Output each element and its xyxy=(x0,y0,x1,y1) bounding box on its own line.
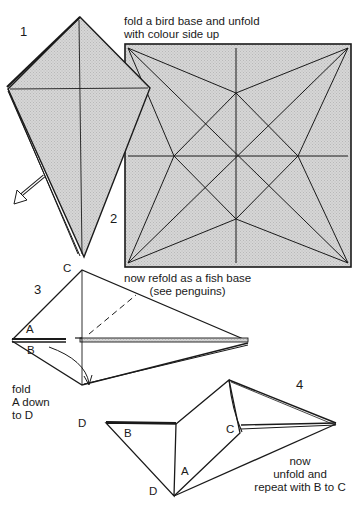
instruction-line: now xyxy=(244,455,356,468)
step2-instruction-top: fold a bird base and unfold with colour … xyxy=(124,15,260,41)
point-label-c: C xyxy=(226,423,234,435)
point-label-b: B xyxy=(27,344,35,356)
instruction-line: (see penguins) xyxy=(124,285,251,298)
step2-instruction-bottom: now refold as a fish base (see penguins) xyxy=(124,272,251,298)
origami-diagram xyxy=(0,0,362,519)
step3-instruction: fold A down to D xyxy=(12,383,50,422)
point-label-b: B xyxy=(124,427,132,439)
instruction-line: to D xyxy=(12,409,50,422)
open-arrow-icon xyxy=(14,176,44,204)
step-number-2: 2 xyxy=(110,211,117,226)
instruction-line: now refold as a fish base xyxy=(124,272,251,285)
step2-crease-square xyxy=(125,44,351,267)
point-label-d: D xyxy=(78,417,86,429)
instruction-line: A down xyxy=(12,396,50,409)
step4-instruction: now unfold and repeat with B to C xyxy=(244,455,356,494)
step-number-4: 4 xyxy=(296,377,303,392)
instruction-line: unfold and xyxy=(244,468,356,481)
step-number-3: 3 xyxy=(34,282,41,297)
instruction-line: fold xyxy=(12,383,50,396)
instruction-line: with colour side up xyxy=(124,28,260,41)
point-label-a: A xyxy=(181,465,189,477)
step-number-1: 1 xyxy=(20,24,27,39)
point-label-a: A xyxy=(26,323,34,335)
fold-arrow-icon xyxy=(49,347,92,385)
point-label-d: D xyxy=(149,485,157,497)
instruction-line: fold a bird base and unfold xyxy=(124,15,260,28)
point-label-c: C xyxy=(63,262,71,274)
instruction-line: repeat with B to C xyxy=(244,481,356,494)
